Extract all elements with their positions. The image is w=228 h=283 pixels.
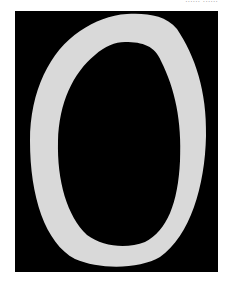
oval-ring: [30, 14, 206, 267]
ring-shape: [15, 11, 218, 272]
image-caption: ...... ......: [185, 0, 218, 4]
image-frame: [15, 11, 218, 272]
